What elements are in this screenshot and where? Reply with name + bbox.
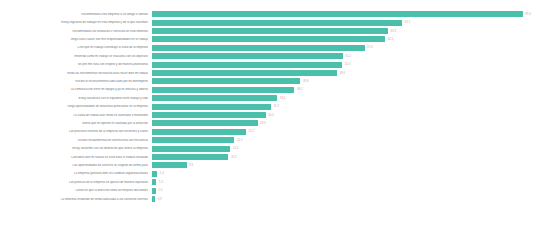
bar — [152, 28, 388, 34]
bar-value-label: 1.0 — [158, 189, 162, 192]
horizontal-bar-chart: Recomendaria esta empresa a un amigo o f… — [0, 0, 540, 232]
bar-value-label: 99.4 — [525, 13, 531, 16]
bar — [152, 78, 300, 84]
bar-track: 25.2 — [152, 128, 254, 136]
bar-track: 1.0 — [152, 186, 162, 194]
category-label: Creo que mi trabajo contribuye al exito … — [2, 46, 148, 49]
bar-track: 62.5 — [152, 35, 393, 43]
bar-row: La comunicacion entre mi equipo y yo es … — [0, 86, 540, 94]
bar-track: 28.3 — [152, 119, 266, 127]
bar — [152, 137, 234, 143]
bar-value-label: 51.0 — [345, 63, 351, 66]
bar — [152, 171, 157, 177]
bar-track: 1.2 — [152, 178, 163, 186]
bar-value-label: 62.5 — [388, 38, 394, 41]
bar-row: Recomendaria los productos y servicios d… — [0, 27, 540, 35]
bar-row: Creo que mi trabajo contribuye al exito … — [0, 44, 540, 52]
bar-row: Recomendaria esta empresa a un amigo o f… — [0, 10, 540, 18]
bar — [152, 154, 228, 160]
bar-row: Tengo las herramientas necesarias para h… — [0, 69, 540, 77]
category-label: Recomendaria esta empresa a un amigo o f… — [2, 13, 148, 16]
bar-row: Recibo retroalimentacion constructiva co… — [0, 136, 540, 144]
bar-value-label: 51.2 — [345, 55, 351, 58]
bar-value-label: 21.0 — [233, 147, 239, 150]
bar-track: 67.1 — [152, 18, 410, 26]
category-label: Considero que mi salario es justo para e… — [2, 156, 148, 159]
bar-row: Las politicas de la empresa se aplican d… — [0, 178, 540, 186]
bar-row: La carga de trabajo que tengo es razonab… — [0, 111, 540, 119]
bar-track: 38.2 — [152, 86, 303, 94]
bar-value-label: 0.9 — [158, 198, 162, 201]
category-label: Las oportunidades de ascenso se asignan … — [2, 164, 148, 167]
bar-track: 39.8 — [152, 77, 309, 85]
category-label: Estoy orgulloso de trabajar en esta empr… — [2, 21, 148, 24]
bar — [152, 87, 294, 93]
bar-value-label: 31.9 — [273, 105, 279, 108]
category-label: Tengo claro cuales son mis responsabilid… — [2, 38, 148, 41]
bar-value-label: 25.2 — [248, 130, 254, 133]
category-label: Tengo oportunidades de desarrollo profes… — [2, 105, 148, 108]
bar — [152, 188, 156, 194]
bar-track: 30.5 — [152, 111, 274, 119]
bar-row: Las oportunidades de ascenso se asignan … — [0, 161, 540, 169]
bar-track: 1.4 — [152, 170, 164, 178]
bar-track: 49.6 — [152, 69, 345, 77]
bar-track: 63.3 — [152, 27, 396, 35]
bar-track: 99.4 — [152, 10, 531, 18]
plot-area: Recomendaria esta empresa a un amigo o f… — [0, 0, 540, 232]
bar-row: Mi jefe me trata con respeto y de manera… — [0, 60, 540, 68]
bar-row: Los procesos internos de la empresa son … — [0, 128, 540, 136]
bar — [152, 36, 385, 42]
bar-value-label: 63.3 — [391, 30, 397, 33]
bar — [152, 20, 402, 26]
bar-row: Considero que mi salario es justo para e… — [0, 153, 540, 161]
bar-value-label: 22.1 — [237, 139, 243, 142]
bar — [152, 179, 156, 185]
bar — [152, 112, 266, 118]
bar-row: Estoy orgulloso de trabajar en esta empr… — [0, 18, 540, 26]
bar — [152, 146, 230, 152]
bar-value-label: 28.3 — [260, 122, 266, 125]
category-label: Los procesos internos de la empresa son … — [2, 130, 148, 133]
bar — [152, 162, 187, 168]
bar-track: 51.2 — [152, 52, 351, 60]
bar-track: 33.6 — [152, 94, 285, 102]
bar-row: La empresa responde de forma adecuada a … — [0, 195, 540, 203]
category-label: Recibo retroalimentacion constructiva co… — [2, 139, 148, 142]
bar-track: 51.0 — [152, 60, 350, 68]
bar-value-label: 49.6 — [340, 72, 346, 75]
bar — [152, 70, 337, 76]
bar-value-label: 57.0 — [367, 46, 373, 49]
bar-track: 21.0 — [152, 144, 238, 152]
bar-row: Siento que mi opinion es valorada por la… — [0, 119, 540, 127]
category-label: La comunicacion entre mi equipo y yo es … — [2, 88, 148, 91]
bar-value-label: 33.6 — [280, 97, 286, 100]
bar-value-label: 30.5 — [268, 114, 274, 117]
bar-track: 20.5 — [152, 153, 237, 161]
bar — [152, 62, 342, 68]
bar-value-label: 38.2 — [297, 88, 303, 91]
bar-row: Recibo el reconocimiento adecuado por mi… — [0, 77, 540, 85]
category-label: Recibo el reconocimiento adecuado por mi… — [2, 80, 148, 83]
category-label: La carga de trabajo que tengo es razonab… — [2, 114, 148, 117]
category-label: Confio en que la direccion toma las mejo… — [2, 189, 148, 192]
bar-track: 57.0 — [152, 44, 373, 52]
category-label: Las politicas de la empresa se aplican d… — [2, 181, 148, 184]
category-label: Estoy conforme con los beneficios que of… — [2, 147, 148, 150]
bar-row: Estoy conforme con los beneficios que of… — [0, 144, 540, 152]
bar-row: Tengo oportunidades de desarrollo profes… — [0, 102, 540, 110]
bar-row: Entiendo como mi trabajo se relaciona co… — [0, 52, 540, 60]
bar-value-label: 9.3 — [189, 164, 193, 167]
bar — [152, 95, 277, 101]
bar-track: 31.9 — [152, 102, 279, 110]
category-label: Siento que mi opinion es valorada por la… — [2, 122, 148, 125]
bar-row: Estoy satisfecho con el equilibrio entre… — [0, 94, 540, 102]
bar — [152, 196, 155, 202]
bar — [152, 45, 365, 51]
bar-row: La empresa gestiona bien los cambios org… — [0, 170, 540, 178]
bar-track: 22.1 — [152, 136, 243, 144]
category-label: La empresa gestiona bien los cambios org… — [2, 172, 148, 175]
bar-track: 0.9 — [152, 195, 162, 203]
bar-row: Confio en que la direccion toma las mejo… — [0, 186, 540, 194]
category-label: Tengo las herramientas necesarias para h… — [2, 72, 148, 75]
